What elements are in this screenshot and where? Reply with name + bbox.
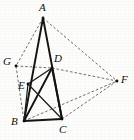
segment-CF — [62, 81, 117, 119]
vertex-dots-group — [15, 17, 119, 123]
vertex-dot-g — [15, 65, 18, 68]
vertex-dot-d — [51, 67, 54, 70]
geometry-canvas — [0, 0, 134, 140]
vertex-label-b: B — [11, 116, 18, 127]
vertex-label-e: E — [18, 80, 25, 91]
vertex-label-g: G — [3, 56, 11, 67]
vertex-dot-a — [42, 17, 45, 20]
segment-AF — [43, 18, 117, 81]
segment-GB — [16, 66, 24, 121]
segment-AB — [24, 18, 43, 121]
segment-DF — [52, 68, 117, 81]
segment-BC — [24, 119, 62, 121]
vertex-dot-f — [116, 80, 119, 83]
vertex-label-c: C — [59, 124, 66, 135]
segment-BF — [24, 81, 117, 121]
vertex-dot-b — [23, 120, 26, 123]
vertex-dot-c — [61, 118, 64, 121]
geometry-figure: ABCDEFG — [0, 0, 134, 140]
vertex-dot-e — [27, 83, 30, 86]
vertex-label-a: A — [39, 2, 46, 13]
vertex-label-d: D — [54, 53, 62, 64]
solid-edges-group — [24, 18, 62, 121]
segment-DC — [52, 68, 62, 119]
vertex-label-f: F — [121, 74, 128, 85]
